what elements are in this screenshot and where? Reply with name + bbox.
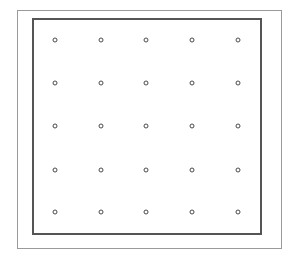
- grid-dot: [144, 168, 149, 173]
- grid-dot: [144, 38, 149, 43]
- grid-dot: [190, 81, 195, 86]
- grid-dot: [144, 81, 149, 86]
- grid-dot: [53, 81, 58, 86]
- grid-dot: [236, 81, 241, 86]
- grid-dot: [53, 210, 58, 215]
- grid-dot: [190, 168, 195, 173]
- grid-dot: [190, 124, 195, 129]
- grid-dot: [144, 124, 149, 129]
- grid-dot: [236, 38, 241, 43]
- grid-dot: [99, 168, 104, 173]
- grid-dot: [99, 210, 104, 215]
- grid-dot: [99, 81, 104, 86]
- grid-dot: [53, 124, 58, 129]
- grid-dot: [236, 210, 241, 215]
- grid-dot: [53, 38, 58, 43]
- grid-dot: [99, 38, 104, 43]
- grid-dot: [144, 210, 149, 215]
- grid-dot: [236, 124, 241, 129]
- grid-dot: [190, 210, 195, 215]
- grid-dot: [236, 168, 241, 173]
- grid-dot: [190, 38, 195, 43]
- grid-dot: [53, 168, 58, 173]
- grid-dot: [99, 124, 104, 129]
